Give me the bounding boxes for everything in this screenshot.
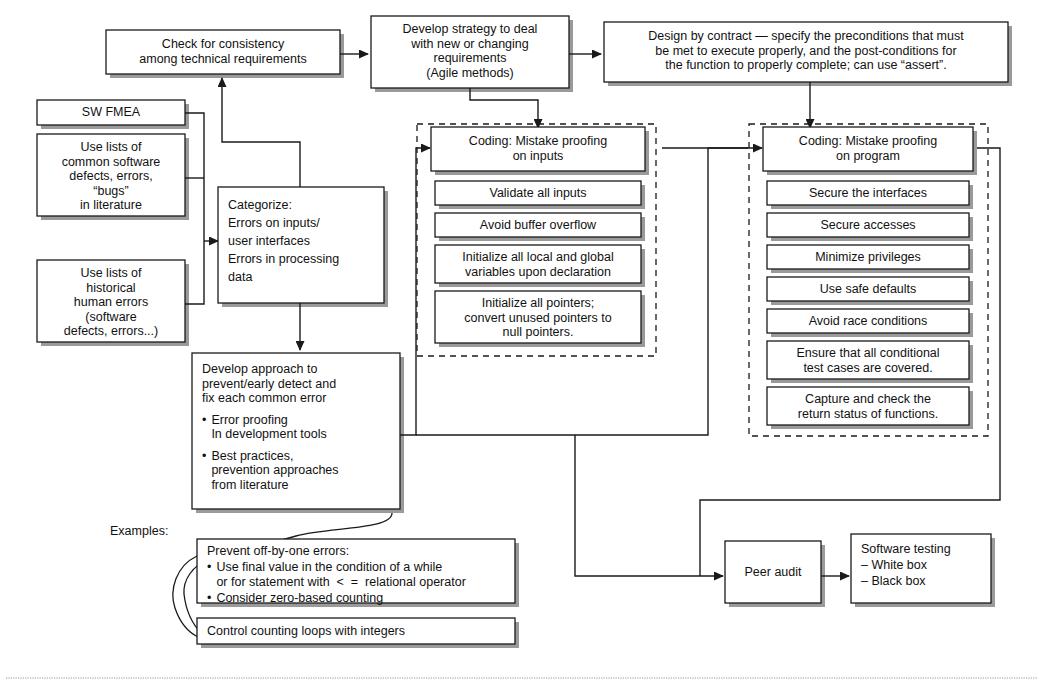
box-inputs-item-0[interactable]	[435, 181, 641, 205]
bullet-text: Best practices,prevention approachesfrom…	[211, 449, 338, 493]
box-use-lists-common[interactable]	[37, 134, 185, 216]
label-develop-approach: Develop approach toprevent/early detect …	[202, 362, 394, 492]
bullet-text: Use final value in the condition of a wh…	[216, 560, 465, 590]
box-software-testing[interactable]	[851, 534, 991, 603]
bullet-text: Consider zero-based counting	[216, 591, 383, 606]
text-line: Best practices,	[211, 449, 338, 464]
box-program-item-0[interactable]	[767, 181, 969, 205]
box-sw-fmea[interactable]	[37, 100, 185, 125]
prevent-heading: Prevent off-by-one errors:	[207, 544, 513, 559]
box-inputs-item-3[interactable]	[435, 291, 641, 343]
box-peer-audit[interactable]	[725, 541, 821, 603]
box-inputs-header[interactable]	[431, 127, 645, 171]
bullet-dot-icon: •	[207, 591, 211, 606]
box-program-item-6[interactable]	[767, 387, 969, 425]
text-line: Error proofing	[211, 413, 326, 428]
bullet-text: Error proofingIn development tools	[211, 413, 326, 442]
box-program-item-3[interactable]	[767, 277, 969, 301]
bullet-dot-icon: •	[207, 560, 211, 590]
bullet-item: •Error proofingIn development tools	[202, 413, 394, 442]
develop-approach-bullets: •Error proofingIn development tools•Best…	[202, 413, 394, 493]
box-program-item-4[interactable]	[767, 309, 969, 333]
text-line: from literature	[211, 478, 338, 493]
text-line: In development tools	[211, 427, 326, 442]
text-line: Consider zero-based counting	[216, 591, 383, 606]
text-line: or for statement with < = relational ope…	[216, 575, 465, 590]
label-prevent-off-by-one: Prevent off-by-one errors: •Use final va…	[207, 544, 513, 606]
prevent-bullets: •Use final value in the condition of a w…	[207, 560, 513, 606]
box-inputs-item-1[interactable]	[435, 213, 641, 237]
boxes	[37, 16, 1008, 644]
text-line: Use final value in the condition of a wh…	[216, 560, 465, 575]
box-develop-strategy[interactable]	[371, 16, 569, 88]
box-design-by-contract[interactable]	[604, 22, 1008, 82]
box-program-item-2[interactable]	[767, 245, 969, 269]
text-line: prevent/early detect and	[202, 377, 394, 392]
text-line: Develop approach to	[202, 362, 394, 377]
bullet-item: •Consider zero-based counting	[207, 591, 513, 606]
flowchart-page: Check for consistencyamong technical req…	[0, 0, 1043, 693]
bullet-item: •Use final value in the condition of a w…	[207, 560, 513, 590]
box-inputs-item-2[interactable]	[435, 245, 641, 283]
bullet-dot-icon: •	[202, 413, 206, 442]
bullet-dot-icon: •	[202, 449, 206, 493]
develop-approach-heading: Develop approach toprevent/early detect …	[202, 362, 394, 406]
box-program-item-1[interactable]	[767, 213, 969, 237]
text-line: fix each common error	[202, 391, 394, 406]
box-program-header[interactable]	[763, 127, 973, 171]
box-control-counting[interactable]	[197, 618, 515, 644]
box-program-item-5[interactable]	[767, 341, 969, 379]
bullet-item: •Best practices,prevention approachesfro…	[202, 449, 394, 493]
box-check-consistency[interactable]	[106, 30, 340, 74]
text-line: prevention approaches	[211, 463, 338, 478]
flowchart-canvas	[0, 0, 1043, 693]
box-use-lists-historical[interactable]	[37, 260, 185, 342]
box-categorize[interactable]	[218, 187, 384, 303]
